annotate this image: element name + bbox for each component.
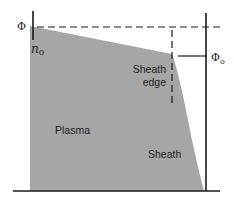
- phi0-main: Φ: [211, 51, 220, 64]
- potential-profile-region: [30, 26, 204, 191]
- phi0-label: Φo: [211, 51, 225, 66]
- plasma-sheath-diagram: Φ no Φo Sheath edge Plasma Sheath: [0, 0, 234, 204]
- phi0-sub: o: [220, 57, 225, 66]
- phi-label: Φ: [17, 20, 26, 33]
- sheath-edge-label-line2: edge: [143, 76, 167, 88]
- sheath-label: Sheath: [148, 148, 181, 160]
- sheath-edge-label-line1: Sheath: [133, 63, 166, 75]
- n0-sub: o: [39, 47, 44, 57]
- plasma-label: Plasma: [55, 124, 90, 136]
- n0-main: n: [31, 42, 39, 56]
